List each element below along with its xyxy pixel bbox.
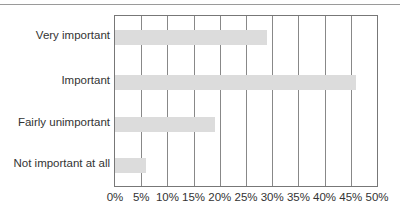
plot-area bbox=[114, 15, 378, 187]
x-tick-label: 20% bbox=[208, 191, 231, 203]
x-tick-label: 35% bbox=[287, 191, 310, 203]
x-tick-label: 30% bbox=[261, 191, 284, 203]
gridline bbox=[351, 16, 352, 186]
x-tick-label: 45% bbox=[339, 191, 362, 203]
x-tick-label: 0% bbox=[107, 191, 124, 203]
x-tick-label: 15% bbox=[182, 191, 205, 203]
x-tick-label: 50% bbox=[365, 191, 388, 203]
category-label: Fairly unimportant bbox=[18, 116, 110, 128]
x-tick-label: 25% bbox=[234, 191, 257, 203]
x-tick-label: 10% bbox=[156, 191, 179, 203]
bar bbox=[115, 158, 146, 173]
top-rule bbox=[0, 4, 400, 5]
x-tick-label: 5% bbox=[133, 191, 150, 203]
bar bbox=[115, 117, 215, 132]
bar bbox=[115, 75, 356, 90]
gridline bbox=[298, 16, 299, 186]
bar bbox=[115, 30, 267, 45]
x-tick-label: 40% bbox=[313, 191, 336, 203]
gridline bbox=[325, 16, 326, 186]
category-label: Very important bbox=[36, 29, 110, 41]
gridline bbox=[272, 16, 273, 186]
category-label: Important bbox=[61, 74, 110, 86]
category-label: Not important at all bbox=[13, 157, 110, 169]
